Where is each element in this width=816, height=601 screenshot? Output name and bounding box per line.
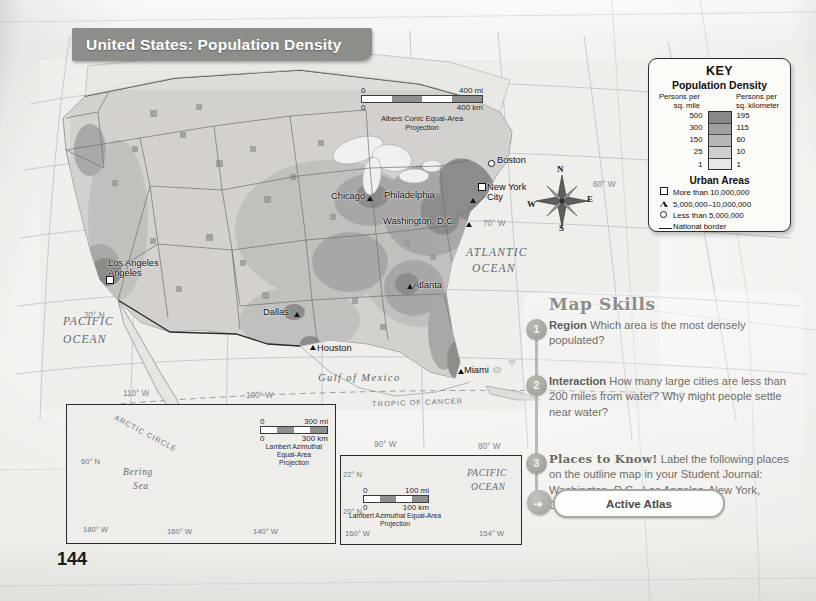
key-urban-item-3: National border <box>659 221 790 232</box>
water-label-ocean: OCEAN <box>472 262 516 274</box>
map-skills-panel: Map Skills 1Region Which area is the mos… <box>523 292 804 526</box>
skills-item-1: Region Which area is the most densely po… <box>549 318 801 349</box>
graticule-label-70-w: 70° W <box>483 219 505 228</box>
map-key: KEY Population Density Persons per sq. m… <box>648 58 791 232</box>
compass-rose: N E S W <box>524 166 600 236</box>
hi-scale-km: 100 km <box>403 503 429 512</box>
ramp-swatch-3 <box>709 147 731 159</box>
line-symbol-icon <box>659 221 668 232</box>
map-title-banner: United States: Population Density <box>72 28 372 61</box>
city-label-dallas: Dallas <box>263 307 289 317</box>
city-label-philadelphia: Philadelphia <box>384 190 435 200</box>
ak-projection-1: Lambert Azimuthal <box>257 443 331 451</box>
alaska-graticule-160-w: 160° W <box>167 527 192 536</box>
key-urban-item-1: 5,000,000–10,000,000 <box>659 199 790 210</box>
alaska-scale-bar: 0 300 mi 0 300 km Lambert Azimuthal Equa… <box>257 417 331 467</box>
city-label-new-york: New YorkCity <box>487 182 526 202</box>
city-label-miami: Miami <box>464 365 489 375</box>
ramp-mile-1: 300 <box>689 123 702 134</box>
bering-sea-label-2: Sea <box>133 481 149 491</box>
compass-east: E <box>587 194 593 204</box>
ramp-color-swatches <box>708 111 732 170</box>
hawaii-ocean-line1: PACIFIC <box>467 468 507 478</box>
skills-item-label-3: Places to Know! <box>549 452 658 466</box>
page-number: 144 <box>57 549 87 570</box>
ak-projection-2: Equal-Area <box>257 451 331 459</box>
ak-scale-zero-bottom: 0 <box>260 434 264 443</box>
active-atlas-row[interactable]: ➜ Active Atlas <box>527 488 802 516</box>
city-label-atlanta: Atlanta <box>413 280 442 290</box>
ramp-values-per-mile: 500300150251 <box>659 111 703 170</box>
ramp-mile-2: 150 <box>689 135 702 146</box>
hi-scale-miles: 100 mi <box>405 486 429 495</box>
compass-west: W <box>527 199 536 209</box>
graticule-label-110-w: 110° W <box>123 389 149 398</box>
ak-projection-3: Projection <box>257 459 331 467</box>
key-urban-list: More than 10,000,0005,000,000–10,000,000… <box>649 186 790 232</box>
water-label-atlantic: ATLANTIC <box>466 246 528 258</box>
scale-miles: 400 mi <box>459 86 483 95</box>
ramp-values-per-km: 19511560101 <box>737 111 781 170</box>
hawaii-graticule-22-n: 22° N <box>343 470 362 479</box>
graticule-label-100-w: 100° W <box>246 391 273 400</box>
ramp-swatch-0 <box>709 112 731 124</box>
ak-scale-miles: 300 mi <box>304 417 328 426</box>
key-urban-label-0: More than 10,000,000 <box>673 187 749 198</box>
key-right-unit-line2: sq. kilometer <box>736 102 784 111</box>
key-left-unit-line2: sq. mile <box>655 102 700 111</box>
active-atlas-label: Active Atlas <box>555 491 723 516</box>
city-label-washington-d-c-: Washington, D.C. <box>383 216 456 226</box>
arctic-circle-label: ARCTIC CIRCLE <box>113 413 179 454</box>
ramp-swatch-4 <box>709 159 731 170</box>
compass-north: N <box>557 164 564 174</box>
city-marker-chicago <box>367 196 373 201</box>
key-urban-item-0: More than 10,000,000 <box>659 187 790 198</box>
key-urban-label-1: 5,000,000–10,000,000 <box>673 199 751 210</box>
skills-bullet-1: 1 <box>526 319 547 340</box>
graticule-label-80-w: 80° W <box>478 442 500 451</box>
key-urban-title: Urban Areas <box>649 175 790 186</box>
hawaii-graticule-154-w: 154° W <box>479 529 504 538</box>
key-urban-label-3: National border <box>673 221 726 232</box>
projection-line-2: Projection <box>352 123 492 132</box>
scale-zero-bottom: 0 <box>361 103 365 112</box>
city-label-boston: Boston <box>497 155 526 165</box>
ramp-mile-4: 1 <box>698 160 702 171</box>
city-marker-philadelphia <box>470 198 476 203</box>
density-ramp: 500300150251 19511560101 <box>649 111 790 170</box>
alaska-graticule-140-w: 140° W <box>253 527 278 536</box>
water-label-gulf-of-mexico: Gulf of Mexico <box>318 372 401 383</box>
alaska-graticule-60-n: 60° N <box>81 457 100 466</box>
key-urban-item-2: Less than 5,000,000 <box>659 210 790 221</box>
circle-symbol-icon <box>659 210 668 221</box>
key-title: KEY <box>649 64 790 78</box>
compass-south: S <box>559 223 564 233</box>
hi-scale-zero-top: 0 <box>363 486 367 495</box>
city-marker-new-york <box>478 183 486 191</box>
graticule-label-90-w: 90° W <box>374 440 396 449</box>
key-subtitle: Population Density <box>649 79 790 91</box>
active-atlas-button[interactable]: Active Atlas <box>553 489 725 518</box>
city-label-los-angeles: Los AngelesAngeles <box>108 258 159 278</box>
graticule-label-60-w: 60° W <box>593 180 615 189</box>
hawaii-ocean-line2: OCEAN <box>471 482 506 492</box>
skills-item-text-1: Region Which area is the most densely po… <box>549 318 801 349</box>
city-marker-boston <box>488 160 495 167</box>
city-marker-houston <box>310 345 316 350</box>
arrow-circle-icon[interactable]: ➜ <box>527 490 552 515</box>
skills-item-label-1: Region <box>549 319 587 331</box>
city-label-houston: Houston <box>317 343 352 353</box>
hi-projection-2: Projection <box>340 520 451 528</box>
ak-scale-km: 300 km <box>302 434 328 443</box>
water-label-ocean: OCEAN <box>63 333 107 345</box>
scale-km: 400 km <box>457 103 483 112</box>
graticule-label-30-n: 30° N <box>84 311 105 320</box>
right-arrow-icon: ➜ <box>533 499 543 510</box>
skills-bullet-2: 2 <box>526 375 547 396</box>
skills-item-2: Interaction How many large cities are le… <box>549 374 801 420</box>
ramp-swatch-2 <box>709 135 731 147</box>
map-skills-heading: Map Skills <box>549 294 656 314</box>
hi-scale-zero-bottom: 0 <box>363 503 367 512</box>
map-skills-spine <box>535 320 538 504</box>
square-symbol-icon <box>659 187 668 198</box>
